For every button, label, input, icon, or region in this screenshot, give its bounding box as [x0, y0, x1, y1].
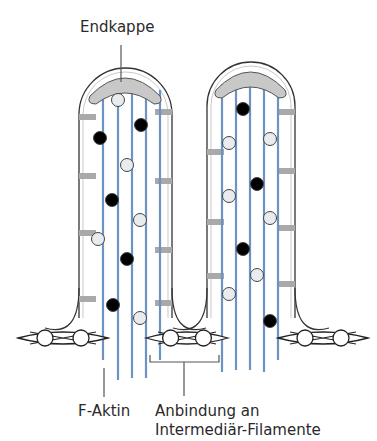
right-junction	[278, 330, 368, 346]
crosslink-bar	[278, 109, 295, 115]
crosslink-bar	[155, 178, 172, 184]
crosslink-bar	[79, 296, 96, 302]
junction-node	[37, 330, 53, 346]
membrane-base-left	[45, 288, 79, 330]
junction-node	[333, 330, 349, 346]
diagram-canvas	[0, 0, 377, 441]
crosslink-bar	[278, 168, 295, 174]
filled-protein-dot	[237, 103, 250, 116]
junction-node	[163, 330, 179, 346]
crosslink-bar	[278, 281, 295, 287]
membrane-outer	[79, 68, 172, 318]
open-protein-dot	[223, 137, 236, 150]
open-protein-dot	[121, 159, 134, 172]
filled-protein-dot	[135, 119, 148, 132]
open-protein-dot	[223, 190, 236, 203]
membrane-base-left	[173, 288, 207, 330]
filled-protein-dot	[264, 315, 277, 328]
junction-layer	[18, 330, 368, 346]
filled-protein-dot	[251, 178, 264, 191]
crosslink-bar	[79, 173, 96, 179]
crosslink-bar	[155, 109, 172, 115]
filled-protein-dot	[106, 194, 119, 207]
crosslink-bar	[155, 300, 172, 306]
open-protein-dot	[112, 94, 125, 107]
open-protein-dot	[251, 269, 264, 282]
crosslink-bar	[155, 247, 172, 253]
end-cap	[89, 78, 161, 104]
junction-node	[195, 330, 211, 346]
membrane-base-right	[172, 288, 206, 330]
left-junction	[18, 330, 108, 346]
filled-protein-dot	[121, 253, 134, 266]
open-protein-dot	[264, 212, 277, 225]
open-protein-dot	[264, 133, 277, 146]
membrane-inner	[83, 72, 168, 318]
middle-junction	[146, 330, 228, 346]
microvilli-diagram: Endkappe F-Aktin Anbindung an Intermediä…	[0, 0, 377, 441]
junction-node	[73, 330, 89, 346]
membrane-base-right	[295, 288, 329, 330]
intermediate-filament-bracket	[150, 355, 219, 396]
open-protein-dot	[223, 288, 236, 301]
label-intermediaer-filamente: Intermediär-Filamente	[155, 421, 321, 439]
right-villus	[173, 62, 329, 372]
junction-node	[297, 330, 313, 346]
label-f-aktin: F-Aktin	[78, 402, 130, 420]
label-anbindung: Anbindung an	[155, 402, 260, 420]
label-endkappe: Endkappe	[80, 18, 154, 36]
filled-protein-dot	[94, 132, 107, 145]
crosslink-bar	[79, 114, 96, 120]
open-protein-dot	[92, 233, 105, 246]
open-protein-dot	[134, 214, 147, 227]
crosslink-bar	[278, 225, 295, 231]
filled-protein-dot	[107, 299, 120, 312]
open-protein-dot	[134, 312, 147, 325]
filled-protein-dot	[237, 243, 250, 256]
